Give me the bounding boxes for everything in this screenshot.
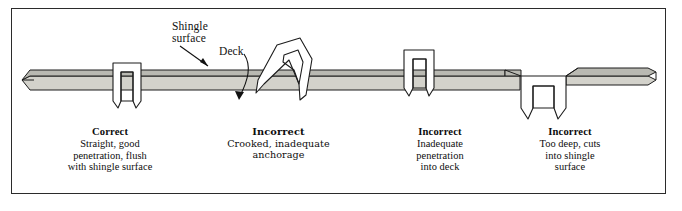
caption-heading: Correct — [36, 126, 184, 138]
caption-overdriven: Incorrect Too deep, cuts into shingle su… — [500, 126, 640, 173]
caption-body: Crooked, inadequate anchorage — [196, 138, 361, 160]
caption-body: Too deep, cuts into shingle surface — [500, 138, 640, 173]
caption-crooked: Incorrect Crooked, inadequate anchorage — [196, 126, 361, 160]
caption-body: Straight, good penetration, flush with s… — [36, 138, 184, 173]
shingle-surface-leader — [180, 46, 208, 66]
callout-deck: Deck — [219, 45, 244, 57]
caption-heading: Incorrect — [500, 126, 640, 138]
staple-overdriven — [521, 76, 566, 119]
shingle-layer-right — [566, 68, 656, 76]
diagram-artwork — [0, 0, 682, 211]
caption-heading: Incorrect — [196, 126, 361, 137]
caption-heading: Incorrect — [376, 126, 504, 138]
deck-layer-right — [566, 76, 656, 85]
caption-shallow: Incorrect Inadequate penetration into de… — [376, 126, 504, 173]
caption-body: Inadequate penetration into deck — [376, 138, 504, 173]
callout-shingle-surface: Shingle surface — [172, 20, 208, 45]
caption-correct: Correct Straight, good penetration, flus… — [36, 126, 184, 173]
staple-crooked — [256, 38, 312, 100]
deck-layer-left — [22, 76, 520, 90]
staple-installation-figure: Shingle surface Deck Correct Straight, g… — [0, 0, 682, 211]
